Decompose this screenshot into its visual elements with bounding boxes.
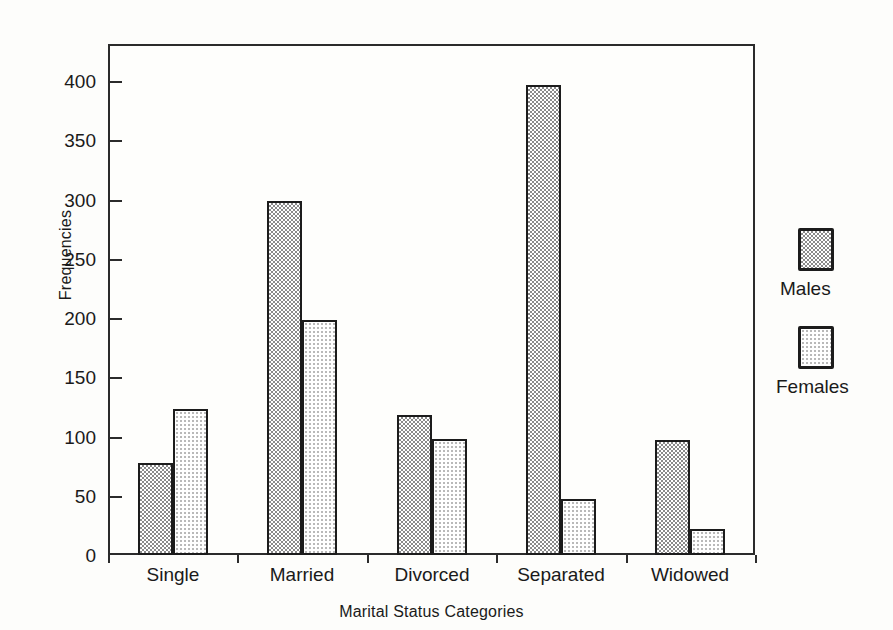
- legend-entry-males[interactable]: Males: [780, 228, 885, 300]
- y-tick-label-150: 150: [34, 368, 96, 387]
- x-axis-title: Marital Status Categories: [108, 603, 755, 621]
- bar-separated-males[interactable]: [526, 85, 561, 555]
- y-tick-150: [108, 377, 122, 379]
- x-tick-4: [755, 555, 757, 563]
- x-tick-0: [237, 555, 239, 563]
- bar-separated-females[interactable]: [561, 499, 596, 555]
- y-tick-400: [108, 81, 122, 83]
- light-dot-swatch: [798, 326, 834, 369]
- y-tick-label-100: 100: [34, 427, 96, 446]
- y-tick-100: [108, 437, 122, 439]
- x-label-separated: Separated: [517, 564, 605, 586]
- y-tick-label-350: 350: [34, 131, 96, 150]
- legend-label-males: Males: [780, 278, 885, 300]
- x-label-married: Married: [270, 564, 334, 586]
- bar-single-males[interactable]: [138, 463, 173, 555]
- dark-checker-swatch: [798, 228, 834, 271]
- bar-divorced-females[interactable]: [432, 439, 467, 555]
- x-label-single: Single: [147, 564, 200, 586]
- chart-page: Frequencies 050100150200250300350400Sing…: [0, 0, 893, 630]
- bar-widowed-males[interactable]: [655, 440, 690, 555]
- y-tick-50: [108, 496, 122, 498]
- y-tick-label-300: 300: [34, 190, 96, 209]
- x-tick-2: [496, 555, 498, 563]
- x-tick-3: [626, 555, 628, 563]
- y-tick-350: [108, 140, 122, 142]
- y-tick-label-250: 250: [34, 249, 96, 268]
- x-label-widowed: Widowed: [651, 564, 729, 586]
- y-tick-label-50: 50: [34, 486, 96, 505]
- y-tick-300: [108, 200, 122, 202]
- chart-legend: Males Females: [780, 228, 885, 398]
- x-tick-origin: [108, 555, 110, 563]
- y-tick-label-0: 0: [34, 546, 96, 565]
- y-tick-200: [108, 318, 122, 320]
- bar-married-males[interactable]: [267, 201, 302, 555]
- y-tick-250: [108, 259, 122, 261]
- bar-widowed-females[interactable]: [690, 529, 725, 555]
- bar-single-females[interactable]: [173, 409, 208, 555]
- x-tick-1: [367, 555, 369, 563]
- bar-married-females[interactable]: [302, 320, 337, 555]
- x-label-divorced: Divorced: [395, 564, 470, 586]
- y-tick-label-200: 200: [34, 309, 96, 328]
- legend-entry-females[interactable]: Females: [780, 326, 885, 398]
- y-tick-label-400: 400: [34, 72, 96, 91]
- bar-divorced-males[interactable]: [397, 415, 432, 555]
- legend-label-females: Females: [776, 376, 885, 398]
